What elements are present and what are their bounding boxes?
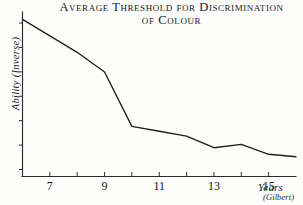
- x-axis-tick-label: 7: [47, 179, 53, 193]
- x-axis-ticks: [50, 172, 269, 177]
- x-axis-tick-label: 11: [153, 179, 165, 193]
- data-line-colour-threshold: [23, 19, 297, 156]
- plot-area: 79111315: [0, 0, 303, 205]
- x-axis-tick-labels: 79111315: [47, 179, 275, 193]
- chart-figure: Average Threshold for Discrimination of …: [0, 0, 303, 205]
- x-axis-tick-label: 9: [102, 179, 108, 193]
- x-axis-tick-label: 13: [208, 179, 220, 193]
- x-axis-tick-label: 15: [263, 179, 275, 193]
